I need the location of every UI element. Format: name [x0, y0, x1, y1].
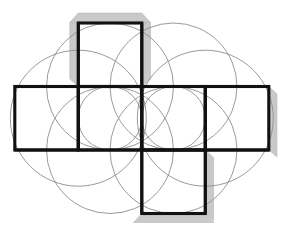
net-square-left [15, 87, 79, 151]
figure-canvas [0, 0, 289, 236]
shadow-top-square-top [70, 13, 151, 23]
circle-mid-left [78, 86, 142, 150]
cube-net-diagram [0, 0, 289, 236]
net-square-right [205, 87, 268, 151]
shadow-group [70, 13, 277, 223]
cube-net-group [15, 23, 269, 214]
circle-mid-right [142, 86, 206, 150]
